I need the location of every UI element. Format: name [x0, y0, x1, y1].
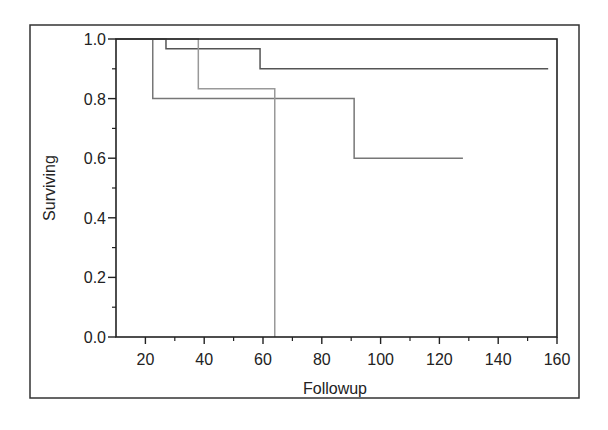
plot-frame	[116, 39, 557, 337]
axes: 204060801001201401600.00.20.40.60.81.0	[84, 31, 571, 368]
y-axis-title: Surviving	[41, 155, 58, 221]
y-tick-label: 1.0	[84, 31, 106, 48]
x-tick-label: 20	[137, 351, 155, 368]
x-tick-label: 40	[195, 351, 213, 368]
survival-chart: 204060801001201401600.00.20.40.60.81.0 F…	[0, 0, 608, 430]
outer-frame	[30, 25, 579, 398]
y-tick-label: 0.8	[84, 91, 106, 108]
y-tick-label: 0.4	[84, 210, 106, 227]
y-tick-label: 0.2	[84, 269, 106, 286]
x-tick-label: 160	[544, 351, 571, 368]
x-tick-label: 120	[426, 351, 453, 368]
survival-curve-1	[116, 39, 548, 69]
survival-curve-3	[116, 39, 275, 337]
x-tick-label: 140	[485, 351, 512, 368]
x-axis-title: Followup	[303, 380, 367, 397]
survival-curve-2	[116, 39, 463, 158]
x-tick-label: 60	[254, 351, 272, 368]
y-tick-label: 0.6	[84, 150, 106, 167]
y-tick-label: 0.0	[84, 329, 106, 346]
x-tick-label: 80	[313, 351, 331, 368]
plot-area	[116, 39, 548, 337]
x-tick-label: 100	[367, 351, 394, 368]
